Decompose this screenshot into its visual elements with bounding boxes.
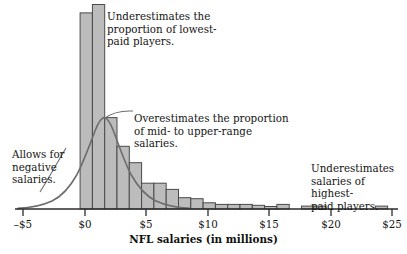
x-tick-label-neg5: –$5 — [14, 218, 32, 230]
histogram-bar — [92, 5, 104, 210]
histogram-bar — [105, 118, 117, 209]
annotation-underestimates-highest-paid: Underestimates salaries of highest- paid… — [311, 162, 406, 212]
chart-figure: –$5 $0 $5 $10 $15 $20 $25 Underestimates… — [0, 0, 407, 254]
x-tick-label-5: $5 — [139, 218, 152, 230]
histogram-bar — [191, 199, 203, 209]
histogram-bar — [129, 163, 141, 209]
x-tick-label-15: $15 — [259, 218, 279, 230]
x-tick-label-0: $0 — [78, 218, 91, 230]
annotation-overestimates-mid-range: Overestimates the proportion of mid- to … — [134, 112, 294, 150]
histogram-bar — [154, 183, 166, 209]
x-tick-label-20: $20 — [321, 218, 341, 230]
annotation-underestimates-lowest-paid: Underestimates the proportion of lowest-… — [107, 10, 222, 48]
annotation-allows-negative-salaries: Allows for negative salaries. — [12, 148, 82, 186]
x-tick-label-25: $25 — [382, 218, 402, 230]
x-tick-label-10: $10 — [198, 218, 218, 230]
x-axis-title: NFL salaries (in millions) — [0, 233, 407, 245]
histogram-bar — [203, 203, 215, 209]
